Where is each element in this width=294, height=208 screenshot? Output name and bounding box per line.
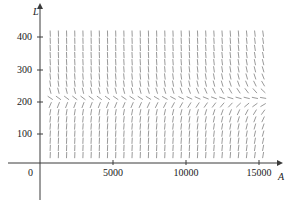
slope-segment xyxy=(236,103,240,107)
slope-segment xyxy=(220,103,224,108)
slope-segment xyxy=(66,109,67,115)
slope-segment xyxy=(181,73,182,79)
slope-segment xyxy=(214,145,215,151)
slope-segment xyxy=(139,88,141,94)
slope-segment xyxy=(238,131,239,137)
slope-segment xyxy=(115,123,116,129)
slope-segment xyxy=(180,88,182,94)
slope-segment xyxy=(262,124,264,130)
slope-segment xyxy=(181,116,182,122)
slope-segment xyxy=(173,59,174,65)
slope-segment xyxy=(252,97,258,98)
slope-segment xyxy=(246,123,247,129)
slope-segment xyxy=(205,123,206,129)
slope-segment xyxy=(164,109,165,115)
y-tick-label: 200 xyxy=(17,96,32,107)
slope-segment xyxy=(246,38,247,44)
slope-segment xyxy=(196,102,199,107)
slope-segment xyxy=(81,96,86,100)
slope-segment xyxy=(196,88,198,94)
slope-segment xyxy=(222,59,223,65)
slope-segment xyxy=(97,96,102,100)
slope-segment xyxy=(254,152,255,158)
slope-segment xyxy=(156,66,157,72)
slope-segment xyxy=(173,116,174,122)
slope-segment xyxy=(197,109,199,115)
slope-segment xyxy=(222,152,223,158)
slope-segment xyxy=(262,74,264,80)
slope-segment xyxy=(197,131,198,137)
slope-segment xyxy=(132,109,133,115)
slope-segment xyxy=(246,138,247,144)
slope-segment xyxy=(254,124,256,130)
slope-segment xyxy=(197,116,198,122)
slope-segment xyxy=(75,73,76,79)
slope-segment xyxy=(187,97,193,100)
slope-segment xyxy=(58,109,59,115)
slope-segment xyxy=(230,116,232,122)
slope-segment xyxy=(172,88,174,94)
slope-segment xyxy=(140,109,141,115)
slope-segment xyxy=(181,81,182,87)
slope-segment xyxy=(82,102,84,108)
slope-segment xyxy=(214,123,215,129)
slope-segment xyxy=(181,123,182,129)
slope-segment xyxy=(254,138,255,144)
slope-segment xyxy=(222,73,223,79)
slope-segment xyxy=(246,131,247,137)
origin-label: 0 xyxy=(28,167,33,178)
slope-segment xyxy=(148,123,149,129)
slope-segment xyxy=(180,102,183,107)
slope-segment xyxy=(148,116,149,122)
slope-segment xyxy=(99,81,100,87)
slope-segment xyxy=(91,109,92,115)
slope-segment xyxy=(230,66,231,72)
slope-segment xyxy=(211,97,217,99)
slope-segment xyxy=(115,116,116,122)
slope-segment xyxy=(255,38,256,44)
slope-segments-group xyxy=(48,31,267,159)
slope-segment xyxy=(156,73,157,79)
slope-segment xyxy=(72,96,77,100)
slope-segment xyxy=(90,88,91,94)
slope-segment xyxy=(252,103,257,107)
slope-segment xyxy=(245,109,248,115)
slope-segment xyxy=(254,66,256,72)
slope-segment xyxy=(238,73,240,79)
slope-segment xyxy=(146,96,151,99)
slope-segment xyxy=(132,73,133,79)
slope-segment xyxy=(91,81,92,87)
slope-segment xyxy=(221,116,222,122)
slope-segment xyxy=(154,96,159,99)
slope-segment xyxy=(222,66,223,72)
slope-segment xyxy=(262,81,265,86)
slope-segment xyxy=(107,88,108,94)
slope-segment xyxy=(262,59,263,65)
slope-segment xyxy=(91,116,92,122)
slope-segment xyxy=(222,145,223,151)
slope-segment xyxy=(263,145,264,151)
slope-segment xyxy=(123,102,125,108)
slope-segment xyxy=(205,88,208,94)
slope-segment xyxy=(50,123,51,129)
slope-segment xyxy=(58,88,60,94)
slope-segment xyxy=(189,123,190,129)
x-tick-label: 10000 xyxy=(174,167,199,178)
slope-segment xyxy=(131,102,133,108)
slope-segment xyxy=(244,97,250,98)
slope-segment xyxy=(197,138,198,144)
slope-segment xyxy=(189,131,190,137)
slope-segment xyxy=(205,116,206,122)
slope-segment xyxy=(107,81,108,87)
slope-segment xyxy=(263,152,264,158)
slope-segment xyxy=(115,81,116,87)
slope-segment xyxy=(74,102,76,108)
slope-segment xyxy=(58,73,59,79)
y-tick-label: 100 xyxy=(17,128,32,139)
slope-segment xyxy=(254,45,255,51)
axes-group xyxy=(8,3,283,200)
slope-segment xyxy=(189,66,190,72)
slope-segment xyxy=(253,110,256,115)
slope-segment xyxy=(66,73,67,79)
slope-segment xyxy=(228,103,232,108)
